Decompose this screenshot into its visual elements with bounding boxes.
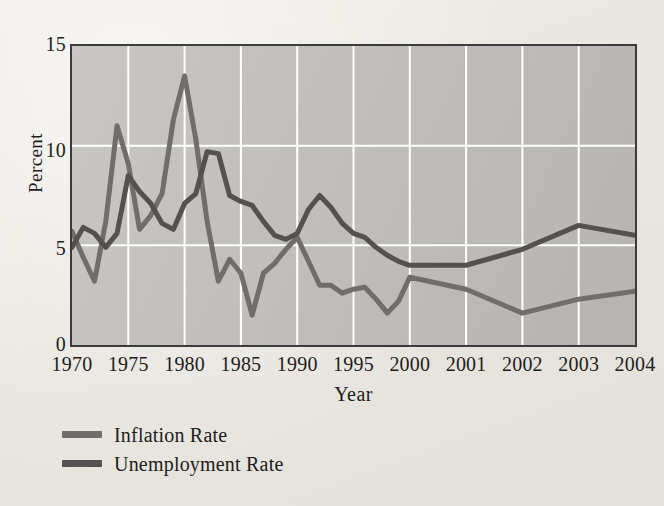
- y-axis-title: Percent: [25, 108, 47, 218]
- legend-item-inflation-rate: Inflation Rate: [62, 420, 482, 449]
- x-axis: 1970197519801985199019952000200120022003…: [70, 352, 637, 380]
- y-axis: 15 10 5 0 Percent: [14, 0, 66, 506]
- plot-area: [70, 44, 637, 347]
- legend-swatch-inflation-rate: [62, 431, 102, 438]
- x-tick-2004: 2004: [600, 352, 664, 376]
- plot-svg: [72, 46, 635, 345]
- chart-legend: Inflation Rate Unemployment Rate: [62, 420, 482, 478]
- x-axis-title: Year: [70, 383, 637, 406]
- y-tick-5: 5: [22, 238, 66, 258]
- chart-figure: 15 10 5 0 Percent 1970197519801985199019…: [0, 0, 664, 506]
- gridlines: [72, 46, 635, 345]
- legend-label-unemployment-rate: Unemployment Rate: [114, 453, 283, 475]
- y-tick-0: 0: [22, 334, 66, 354]
- legend-item-unemployment-rate: Unemployment Rate: [62, 449, 482, 478]
- legend-label-inflation-rate: Inflation Rate: [114, 424, 227, 446]
- y-tick-15: 15: [22, 34, 66, 54]
- legend-swatch-unemployment-rate: [62, 460, 102, 467]
